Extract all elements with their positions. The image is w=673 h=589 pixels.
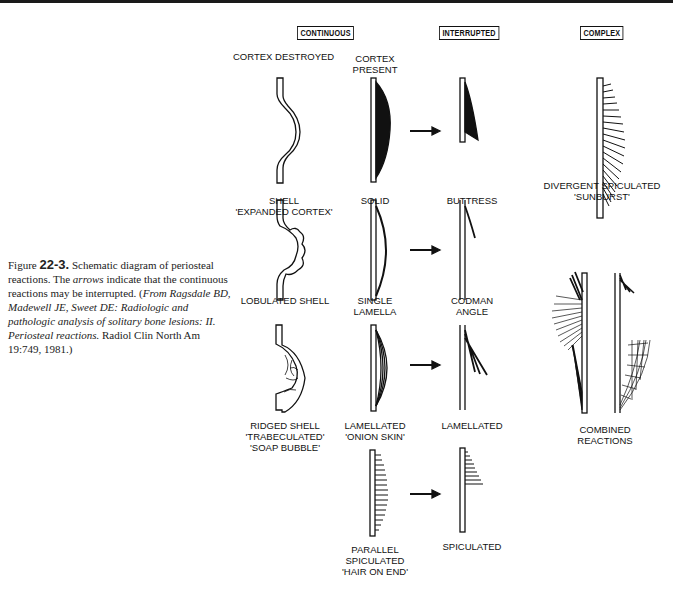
label-codman: CODMAN bbox=[442, 295, 502, 306]
label-ridged-shell: RIDGED SHELL bbox=[235, 420, 335, 431]
label-spiculated: SPICULATED bbox=[340, 555, 410, 566]
label-trabeculated: 'TRABECULATED' bbox=[235, 431, 335, 442]
codman-angle-drawing bbox=[460, 200, 475, 300]
label-lamellated: LAMELLATED bbox=[340, 420, 410, 431]
arrow-icon bbox=[410, 361, 440, 369]
hair-on-end-drawing bbox=[370, 450, 388, 536]
label-soap-bubble: 'SOAP BUBBLE' bbox=[235, 442, 335, 453]
label-spiculated-interrupted: SPICULATED bbox=[437, 541, 507, 552]
label-shell: SHELL bbox=[249, 195, 319, 206]
label-onion-skin: 'ONION SKIN' bbox=[340, 431, 410, 442]
label-solid: SOLID bbox=[355, 195, 395, 206]
onion-skin-drawing bbox=[371, 325, 387, 411]
label-hair-on-end: 'HAIR ON END' bbox=[335, 566, 415, 577]
arrow-icon bbox=[410, 246, 440, 254]
label-sunburst: 'SUNBURST' bbox=[572, 191, 632, 202]
arrow-icon bbox=[410, 490, 440, 498]
shell-drawing bbox=[277, 78, 300, 183]
ridged-shell-drawing bbox=[276, 325, 305, 412]
combined-reactions-drawing bbox=[552, 272, 650, 413]
label-combined: COMBINED bbox=[570, 424, 640, 435]
label-buttress: BUTTRESS bbox=[442, 195, 502, 206]
label-lamellated-interrupted: LAMELLATED bbox=[437, 420, 507, 431]
label-reactions: REACTIONS bbox=[570, 435, 640, 446]
label-single: SINGLE bbox=[351, 295, 399, 306]
lamellated-interrupted-drawing bbox=[460, 325, 487, 410]
label-lobulated-shell: LOBULATED SHELL bbox=[235, 295, 335, 306]
spiculated-interrupted-drawing bbox=[460, 448, 483, 532]
periosteal-diagram bbox=[0, 0, 673, 589]
label-parallel: PARALLEL bbox=[340, 544, 410, 555]
label-angle: ANGLE bbox=[442, 306, 502, 317]
label-divergent-spiculated: DIVERGENT SPICULATED bbox=[542, 180, 662, 191]
arrow-icon bbox=[410, 127, 440, 135]
label-lamella: LAMELLA bbox=[351, 306, 399, 317]
label-expanded-cortex: 'EXPANDED CORTEX' bbox=[229, 206, 339, 217]
solid-drawing bbox=[371, 78, 390, 182]
single-lamella-drawing bbox=[371, 200, 386, 300]
buttress-drawing bbox=[460, 78, 478, 142]
